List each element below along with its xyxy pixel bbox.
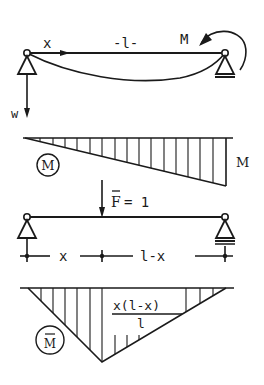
moment-diagram: M M [23, 138, 249, 186]
dim-right-label: l-x [140, 248, 165, 264]
right-roller-support-2-icon [215, 214, 235, 244]
moment-label: M [180, 31, 188, 47]
peak-denominator: l [137, 316, 145, 331]
unit-moment-diagram: x(l-x) l M [20, 288, 234, 362]
force-label: F [111, 194, 121, 210]
dimension-line [20, 238, 233, 262]
span-label: -l- [113, 35, 138, 51]
x-direction-arrow-icon [60, 50, 70, 56]
beam-2: F = 1 x l-x [18, 180, 235, 264]
x-label: x [43, 35, 51, 51]
deflection-curve [27, 53, 225, 81]
dim-left-label: x [59, 248, 67, 264]
w-label: w [11, 107, 19, 121]
w-arrow-icon [24, 108, 30, 118]
beam-1: x -l- M w [11, 31, 246, 121]
moment-end-label: M [236, 155, 249, 170]
moment-circle-label: M [41, 158, 54, 173]
beam-diagram: x -l- M w M M [0, 0, 264, 385]
peak-numerator: x(l-x) [113, 298, 160, 313]
force-value: = 1 [124, 194, 149, 210]
unit-moment-circle-label: M [44, 337, 56, 351]
